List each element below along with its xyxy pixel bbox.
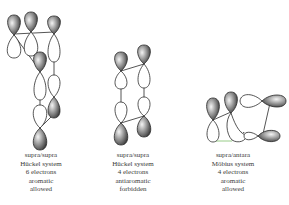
huckel-4-electron-diagram bbox=[114, 45, 151, 145]
caption-electrons: 4 electrons bbox=[193, 168, 273, 177]
p-orbital-shaded-lobe bbox=[48, 16, 61, 34]
p-orbital-shaded-lobe bbox=[262, 95, 286, 107]
p-orbital-white-lobe bbox=[227, 113, 246, 142]
p-orbital-white-lobe bbox=[115, 102, 127, 123]
caption-electrons: 4 electrons bbox=[93, 168, 173, 177]
p-orbital-shaded-lobe bbox=[25, 12, 38, 32]
p-orbital-shaded-lobe bbox=[33, 128, 47, 150]
caption-system: Hückel system bbox=[1, 160, 81, 169]
caption-selection-rule: forbidden bbox=[93, 185, 173, 194]
p-orbital-white-lobe bbox=[207, 120, 219, 142]
mobius-4-caption: supra/antara Möbius system 4 electrons a… bbox=[193, 151, 273, 194]
huckel-6-caption: supra/supra Hückel system 6 electrons ar… bbox=[1, 151, 81, 194]
p-orbital-white-lobe bbox=[244, 132, 258, 140]
huckel-6-electron-diagram bbox=[7, 12, 60, 150]
caption-electrons: 6 electrons bbox=[1, 168, 81, 177]
sigma-bond-line bbox=[14, 32, 54, 34]
p-orbital-shaded-lobe bbox=[138, 45, 151, 64]
p-orbital-shaded-lobe bbox=[258, 130, 280, 141]
caption-selection-rule: allowed bbox=[193, 185, 273, 194]
p-orbital-white-lobe bbox=[138, 97, 150, 116]
p-orbital-shaded-lobe bbox=[8, 15, 21, 35]
p-orbital-white-lobe bbox=[48, 75, 60, 97]
p-orbital-white-lobe bbox=[34, 72, 46, 100]
caption-selection-rule: allowed bbox=[1, 185, 81, 194]
p-orbital-white-lobe bbox=[33, 105, 47, 128]
p-orbital-shaded-lobe bbox=[115, 52, 128, 71]
caption-topology: supra/supra bbox=[1, 151, 81, 160]
p-orbital-white-lobe bbox=[24, 32, 38, 56]
p-orbital-shaded-lobe bbox=[225, 92, 238, 113]
caption-system: Hückel system bbox=[93, 160, 173, 169]
caption-aromaticity: antiaromatic bbox=[93, 177, 173, 186]
sigma-bond-line bbox=[263, 103, 270, 134]
p-orbital-white-lobe bbox=[138, 64, 150, 88]
p-orbital-shaded-lobe bbox=[48, 97, 60, 118]
p-orbital-shaded-lobe bbox=[207, 98, 220, 120]
caption-topology: supra/supra bbox=[93, 151, 173, 160]
p-orbital-shaded-lobe bbox=[34, 52, 47, 72]
p-orbital-white-lobe bbox=[7, 35, 21, 58]
caption-topology: supra/antara bbox=[193, 151, 273, 160]
caption-aromaticity: aromatic bbox=[1, 177, 81, 186]
p-orbital-white-lobe bbox=[115, 71, 127, 89]
mobius-4-electron-diagram bbox=[207, 92, 286, 142]
p-orbital-white-lobe bbox=[48, 34, 60, 62]
caption-system: Möbius system bbox=[193, 160, 273, 169]
p-orbital-white-lobe bbox=[240, 95, 262, 108]
caption-aromaticity: aromatic bbox=[193, 177, 273, 186]
p-orbital-shaded-lobe bbox=[137, 116, 151, 137]
huckel-4-caption: supra/supra Hückel system 4 electrons an… bbox=[93, 151, 173, 194]
p-orbital-shaded-lobe bbox=[114, 123, 128, 145]
